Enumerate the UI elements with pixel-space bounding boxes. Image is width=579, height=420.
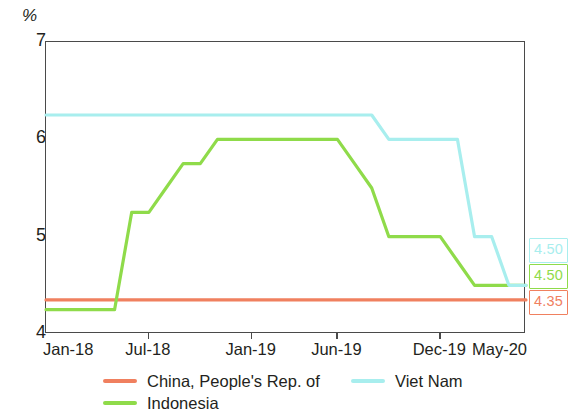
end-value-label: 4.35 [529,290,568,315]
x-axis-tick-mark [148,333,150,339]
y-axis-tick-label: 4 [16,322,46,343]
end-value-label: 4.50 [529,238,568,263]
x-axis-tick-label: Jun-19 [311,340,361,359]
x-axis-tick-label: Jan-18 [43,340,93,359]
x-axis-tick-mark [251,333,253,339]
y-axis-unit-label: % [22,6,37,26]
y-axis-tick-label: 7 [16,30,46,51]
legend-color-swatch [103,401,137,405]
x-axis-tick-label: Jul-18 [125,340,170,359]
x-axis-tick-label: Jan-19 [225,340,275,359]
legend-label: China, People's Rep. of [147,370,320,392]
legend-label: Viet Nam [395,370,463,392]
legend-color-swatch [351,379,385,383]
y-axis-tick-label: 6 [16,127,46,148]
plot-area [45,41,525,333]
x-axis-tick-mark [439,333,441,339]
x-axis-tick-mark [336,333,338,339]
legend-color-swatch [103,379,137,383]
end-value-label: 4.50 [529,264,568,289]
y-axis-tick-label: 5 [16,225,46,246]
x-axis-tick-label: May-20 [472,340,527,359]
series-line [46,139,526,309]
legend-label: Indonesia [147,392,219,414]
series-lines [46,42,526,334]
x-axis-tick-label: Dec-19 [413,340,466,359]
policy-rate-line-chart: % 4567 Jan-18Jul-18Jan-19Jun-19Dec-19May… [0,0,579,420]
